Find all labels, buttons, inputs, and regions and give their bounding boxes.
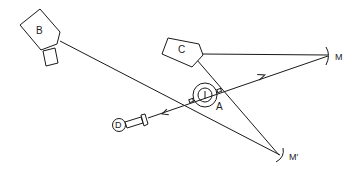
detector-d-flange [141, 114, 148, 126]
source-b-label: B [36, 25, 43, 36]
detector-d-tube [125, 117, 143, 128]
beam-c-to-m-prime [197, 60, 279, 155]
beam-b-to-m-prime [60, 41, 280, 155]
beam-c-to-m [203, 54, 328, 55]
sample-a-window-right [217, 88, 222, 92]
mirror-m: M [326, 47, 343, 65]
detector-d-label: D [115, 120, 122, 130]
mirror-m-label: M [335, 52, 343, 62]
sample-a: A [189, 83, 223, 112]
source-b-lamp-mount [43, 48, 58, 66]
source-c-label: C [178, 44, 185, 55]
sample-a-label: A [216, 101, 223, 112]
sample-a-window-left [189, 98, 194, 102]
source-c: C [162, 38, 203, 67]
mirror-m-prime-label: M′ [289, 152, 298, 162]
source-b: B [20, 9, 60, 66]
detector-d: D [113, 114, 149, 132]
optical-diagram: B C A D M M′ [0, 0, 360, 172]
beam-d-to-m [148, 56, 328, 118]
